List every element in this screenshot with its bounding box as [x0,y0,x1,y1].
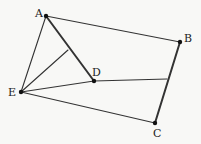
point-label-c: C [153,127,161,140]
point-a [44,14,48,18]
segment-dn [94,79,167,81]
point-b [178,40,182,44]
geometry-diagram: ABCDE [0,0,201,144]
point-label-b: B [184,32,192,45]
point-c [153,121,157,125]
segment-bc [155,42,180,123]
segment-ec [21,92,155,123]
point-label-a: A [34,7,44,20]
point-d [92,79,96,83]
segment-ab [46,16,180,42]
point-label-d: D [92,66,101,79]
point-e [19,90,23,94]
point-label-e: E [8,86,16,99]
segment-ad [46,16,94,81]
